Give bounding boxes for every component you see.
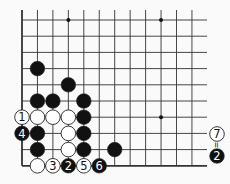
black-stone-icon [30, 61, 45, 76]
stone [30, 61, 45, 76]
stone [77, 126, 92, 141]
stone [30, 94, 45, 109]
stone [30, 110, 45, 125]
stone [61, 78, 76, 93]
equals-sign: = [212, 142, 221, 149]
move-number-label: 1 [18, 110, 25, 124]
stone [46, 110, 61, 125]
go-board-diagram: 143256 7=2 [0, 0, 230, 184]
annotation-stone-2: 2 [210, 149, 225, 164]
white-stone-icon [46, 110, 61, 125]
move-number-label: 3 [49, 159, 56, 173]
white-stone-icon [30, 159, 45, 174]
white-stone-icon [61, 142, 76, 157]
star-point-icon [159, 115, 163, 119]
star-point-icon [66, 18, 70, 22]
move-number-label: 6 [96, 159, 103, 173]
stone [61, 110, 76, 125]
stone [77, 94, 92, 109]
stone [30, 142, 45, 157]
stone [77, 142, 92, 157]
white-stone-icon [61, 110, 76, 125]
numbered-stone: 4 [15, 126, 30, 141]
black-stone-icon [61, 78, 76, 93]
numbered-stone: 1 [15, 110, 30, 125]
white-stone-icon [61, 126, 76, 141]
black-stone-icon [107, 142, 122, 157]
stone [77, 110, 92, 125]
black-stone-icon [77, 142, 92, 157]
annotation-stone-7: 7 [210, 127, 225, 142]
numbered-stone: 3 [46, 159, 61, 174]
black-stone-icon [77, 94, 92, 109]
stone [30, 159, 45, 174]
stone [30, 126, 45, 141]
star-point-icon [159, 18, 163, 22]
move-number-label: 5 [80, 159, 87, 173]
move-number-label: 7 [213, 127, 220, 141]
numbered-stone: 6 [92, 159, 107, 174]
stone [107, 142, 122, 157]
black-stone-icon [30, 142, 45, 157]
black-stone-icon [46, 94, 61, 109]
numbered-stone: 2 [61, 159, 76, 174]
stone [61, 142, 76, 157]
white-stone-icon [30, 110, 45, 125]
stone [61, 126, 76, 141]
move-number-label: 4 [18, 127, 25, 141]
move-number-label: 2 [213, 149, 220, 163]
numbered-stone: 5 [77, 159, 92, 174]
black-stone-icon [77, 126, 92, 141]
black-stone-icon [77, 110, 92, 125]
move-number-label: 2 [65, 159, 72, 173]
move-annotation: 7=2 [210, 127, 225, 164]
black-stone-icon [30, 94, 45, 109]
black-stone-icon [30, 126, 45, 141]
stone [46, 94, 61, 109]
